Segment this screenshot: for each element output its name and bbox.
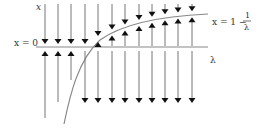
arrow-down-icon — [175, 7, 182, 12]
curve-label-denominator: λ — [244, 23, 249, 32]
arrow-up-icon — [109, 35, 116, 40]
flow-arrows — [42, 4, 196, 118]
arrow-down-icon — [189, 98, 196, 103]
arrow-down-icon — [162, 9, 169, 14]
arrow-down-icon — [95, 98, 102, 103]
curve-label-numerator: 1 — [245, 11, 250, 20]
arrow-down-icon — [189, 6, 196, 11]
arrow-down-icon — [42, 39, 49, 44]
arrow-down-icon — [149, 12, 156, 17]
arrow-down-icon — [109, 24, 116, 29]
arrow-down-icon — [162, 98, 169, 103]
arrow-down-icon — [109, 98, 116, 103]
arrow-down-icon — [55, 39, 62, 44]
arrow-up-icon — [149, 23, 156, 28]
arrow-up-icon — [162, 20, 169, 25]
arrow-down-icon — [122, 98, 129, 103]
arrow-down-icon — [149, 98, 156, 103]
arrow-up-icon — [189, 17, 196, 22]
bifurcation-diagram: x x = 0 x = 1 − 1 λ λ — [0, 0, 262, 128]
curve-label: x = 1 − — [212, 17, 246, 27]
arrow-down-icon — [82, 39, 89, 44]
arrow-down-icon — [136, 98, 143, 103]
arrow-up-icon — [42, 51, 49, 56]
arrow-down-icon — [175, 98, 182, 103]
arrow-up-icon — [136, 26, 143, 31]
arrow-down-icon — [136, 15, 143, 20]
arrow-down-icon — [68, 39, 75, 44]
arrow-down-icon — [82, 98, 89, 103]
arrow-up-icon — [55, 51, 62, 56]
arrow-down-icon — [122, 19, 129, 24]
lambda-axis-label: λ — [210, 55, 216, 65]
arrow-up-icon — [122, 30, 129, 35]
x-axis-label: x — [36, 2, 41, 12]
arrow-up-icon — [175, 18, 182, 23]
origin-line-label: x = 0 — [14, 38, 38, 48]
arrow-up-icon — [68, 51, 75, 56]
arrow-down-icon — [95, 31, 102, 36]
